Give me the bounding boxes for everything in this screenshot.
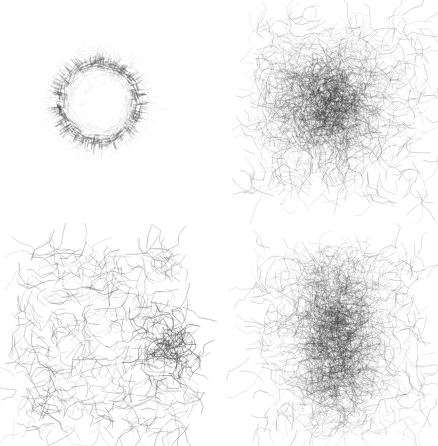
panel-vertical-cluster: Vertical elongated cluster <box>219 223 438 446</box>
ring-network-graphic <box>0 0 219 223</box>
panel-sparse-network: Sparse network <box>0 223 219 446</box>
panel-ring-pattern: Ring pattern <box>0 0 219 223</box>
panel-dense-cluster: Dense radial cluster <box>219 0 438 223</box>
dense-cluster-graphic <box>219 0 438 223</box>
vertical-cluster-graphic <box>219 223 438 446</box>
sparse-network-graphic <box>0 223 219 446</box>
figure-grid: Ring pattern Dense radial cluster Sparse… <box>0 0 438 446</box>
